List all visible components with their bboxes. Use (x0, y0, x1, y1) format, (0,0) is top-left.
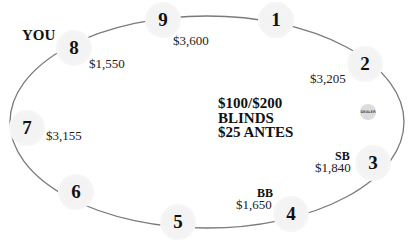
table-info: $100/$200 BLINDS $25 ANTES (218, 96, 293, 140)
seat-5[interactable]: 5 (160, 204, 196, 240)
seat-9-stack: $3,600 (173, 35, 209, 47)
blinds-amount: $100/$200 (218, 96, 293, 111)
seat-3-stack: $1,840 (315, 162, 351, 174)
dealer-button: DEALER (360, 104, 376, 120)
seat-6[interactable]: 6 (58, 174, 94, 210)
seat-8-stack: $1,550 (89, 58, 125, 70)
antes-label: $25 ANTES (218, 125, 293, 140)
seat-8[interactable]: 8 (56, 30, 92, 66)
blinds-label: BLINDS (218, 111, 293, 126)
seat-4-stack: $1,650 (236, 199, 272, 211)
you-label: YOU (22, 27, 55, 44)
seat-3[interactable]: 3 (355, 145, 391, 181)
seat-4[interactable]: 4 (273, 196, 309, 232)
seat-2[interactable]: 2 (347, 46, 383, 82)
seat-2-stack: $3,205 (310, 73, 346, 85)
seat-1[interactable]: 1 (258, 2, 294, 38)
seat-7-stack: $3,155 (46, 130, 82, 142)
seat-7[interactable]: 7 (9, 110, 45, 146)
